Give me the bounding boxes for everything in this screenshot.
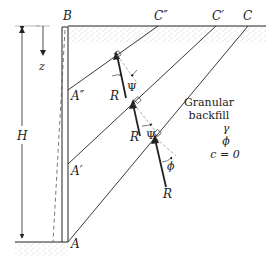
label-phi: ϕ (167, 160, 175, 173)
label-A-prime: A′ (70, 164, 83, 178)
label-B: B (62, 9, 72, 23)
plane-A1-C1 (68, 26, 216, 164)
label-R2: R (129, 130, 139, 144)
label-A: A (70, 237, 80, 251)
label-C-prime: C′ (212, 9, 224, 23)
backfill-properties: Granular backfill γ ϕ c = 0 (184, 96, 240, 161)
dimension-z (36, 26, 50, 56)
failure-planes (68, 26, 248, 242)
label-C: C (243, 9, 252, 23)
label-z: z (38, 60, 45, 73)
wall-deflection-dashed-line (53, 30, 65, 242)
backfill-phi: ϕ (222, 135, 230, 148)
label-A-double-prime: A″ (70, 89, 85, 103)
retaining-wall-diagram: H z B C″ C′ C A″ A′ A R Ψ R Ψ (0, 0, 278, 267)
label-C-double-prime: C″ (154, 9, 168, 23)
label-R1: R (109, 89, 119, 103)
base-ground (15, 242, 68, 256)
retaining-wall (53, 27, 68, 242)
backfill-title-1: Granular (184, 96, 235, 109)
label-R3: R (162, 187, 172, 201)
force-R3 (151, 129, 176, 187)
label-H: H (16, 129, 28, 143)
backfill-gamma: γ (223, 122, 230, 135)
backfill-title-2: backfill (189, 109, 230, 122)
plane-A-C (68, 26, 248, 242)
label-psi1: Ψ (127, 81, 137, 94)
backfill-cohesion: c = 0 (210, 148, 239, 161)
